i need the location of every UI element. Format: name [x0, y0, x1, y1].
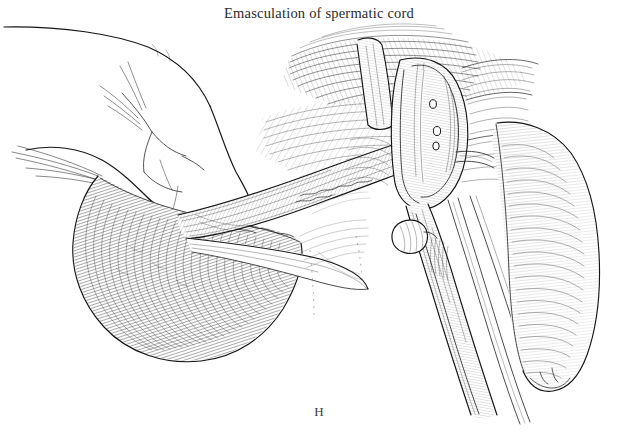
lower-tissue-wisps — [300, 192, 370, 318]
surgical-illustration — [0, 0, 638, 437]
panel-letter: H — [0, 404, 638, 420]
emasculator-instrument — [356, 37, 530, 424]
figure-root: Emasculation of spermatic cord — [0, 0, 638, 437]
tissue-flap-right — [492, 121, 600, 391]
